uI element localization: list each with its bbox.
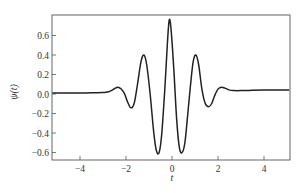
y-tick-label: 0.0 — [37, 90, 49, 100]
x-tick-label: 2 — [216, 164, 221, 174]
x-tick-label: 4 — [262, 164, 267, 174]
y-tick-label: 0.6 — [37, 31, 49, 41]
y-tick-label: −0.4 — [32, 129, 49, 139]
y-tick-label: 0.2 — [37, 70, 49, 80]
y-axis-label: ψ(t) — [8, 84, 20, 100]
x-tick-label: −2 — [121, 164, 131, 174]
x-axis-label: t — [171, 172, 174, 183]
chart: −4−2024 −0.6−0.4−0.20.00.20.40.6 t ψ(t) — [0, 0, 303, 193]
series-line-psi — [52, 19, 289, 154]
y-tick-label: −0.2 — [32, 109, 49, 119]
x-tick-label: −4 — [75, 164, 85, 174]
y-tick-label: −0.6 — [32, 148, 49, 158]
y-tick-label: 0.4 — [37, 51, 49, 61]
